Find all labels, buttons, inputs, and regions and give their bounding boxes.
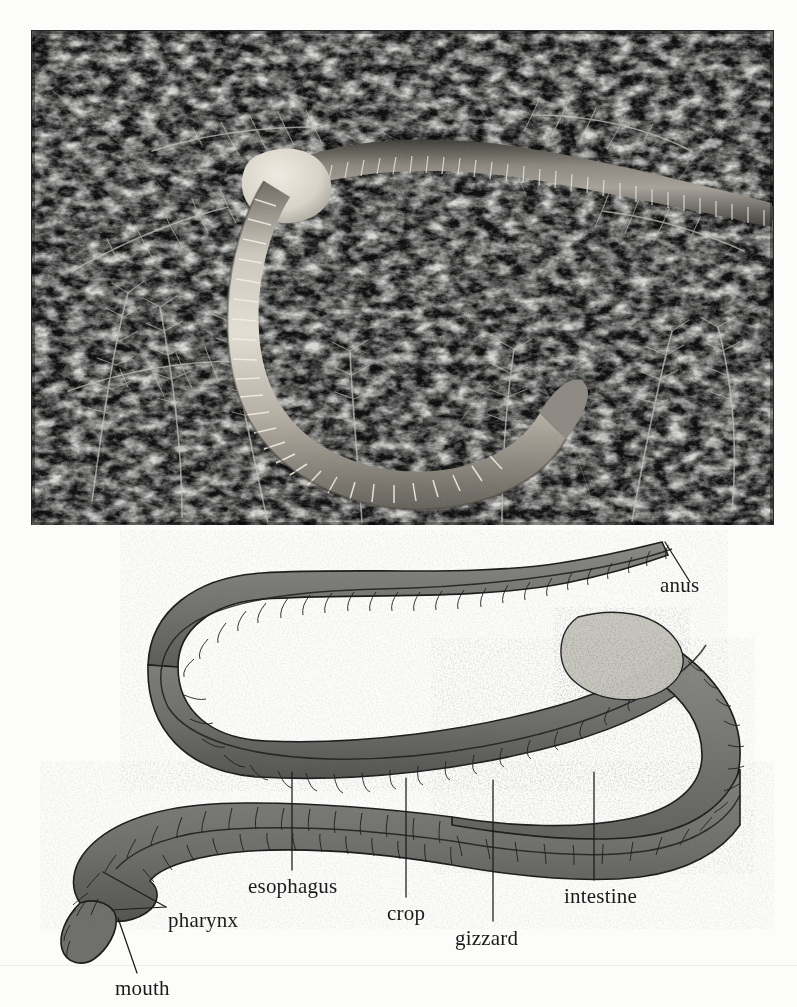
earthworm-digestive-diagram: anus esophagus crop gizzard intestine ph…: [0, 525, 797, 1007]
label-mouth: mouth: [115, 976, 170, 1000]
photograph-canvas: [32, 31, 773, 525]
scan-artifact-line: [0, 965, 797, 966]
label-intestine: intestine: [564, 884, 637, 908]
figure-page: anus esophagus crop gizzard intestine ph…: [0, 0, 797, 1007]
label-gizzard: gizzard: [455, 926, 518, 950]
diagram-canvas: anus esophagus crop gizzard intestine ph…: [0, 525, 797, 1007]
label-anus: anus: [660, 573, 699, 597]
label-crop: crop: [387, 901, 425, 925]
label-pharynx: pharynx: [168, 908, 239, 932]
film-grain: [32, 31, 773, 525]
earthworm-photograph: [32, 31, 773, 525]
label-esophagus: esophagus: [248, 874, 337, 898]
